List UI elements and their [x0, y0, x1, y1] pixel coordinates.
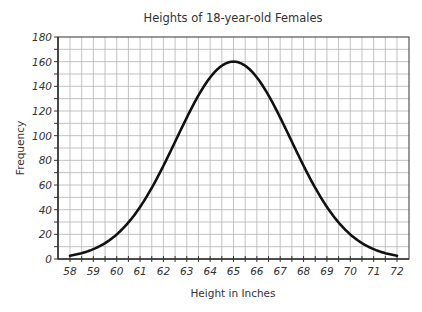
axes — [54, 37, 409, 262]
y-tick-labels: 020406080100120140160180 — [32, 31, 52, 265]
x-tick-label: 64 — [203, 265, 216, 277]
x-tick-label: 65 — [227, 265, 241, 277]
y-tick-label: 180 — [32, 31, 52, 43]
chart-title: Heights of 18-year-old Females — [143, 11, 322, 25]
y-tick-label: 100 — [32, 130, 52, 142]
x-tick-label: 63 — [180, 265, 193, 277]
y-axis-label: Frequency — [14, 121, 26, 175]
y-tick-label: 140 — [32, 80, 52, 92]
grid — [58, 37, 409, 259]
x-tick-label: 70 — [344, 265, 358, 277]
x-tick-label: 71 — [367, 265, 380, 277]
chart: Heights of 18-year-old Females Height in… — [0, 0, 422, 312]
x-tick-label: 59 — [87, 265, 101, 277]
x-tick-label: 60 — [110, 265, 124, 277]
x-axis-label: Height in Inches — [190, 287, 275, 299]
y-tick-label: 160 — [32, 56, 52, 68]
x-tick-label: 61 — [133, 265, 146, 277]
x-tick-labels: 585960616263646566676869707172 — [63, 265, 404, 277]
x-tick-label: 68 — [297, 265, 311, 277]
y-tick-label: 40 — [39, 204, 53, 216]
x-tick-label: 72 — [390, 265, 404, 277]
y-tick-label: 80 — [39, 154, 53, 166]
chart-canvas: Heights of 18-year-old Females Height in… — [0, 0, 422, 312]
x-tick-label: 62 — [157, 265, 171, 277]
x-tick-label: 67 — [274, 265, 288, 277]
x-tick-label: 66 — [250, 265, 264, 277]
y-tick-label: 120 — [32, 105, 52, 117]
y-tick-label: 20 — [39, 228, 53, 240]
x-tick-label: 69 — [320, 265, 334, 277]
y-tick-label: 60 — [39, 179, 53, 191]
y-tick-label: 0 — [45, 253, 52, 265]
x-tick-label: 58 — [63, 265, 77, 277]
